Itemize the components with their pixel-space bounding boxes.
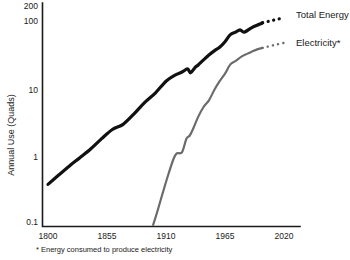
footnote: * Energy consumed to produce electricity	[36, 245, 173, 254]
x-tick-1910: 1910	[157, 231, 176, 241]
y-axis-title: Annual Use (Quads)	[6, 94, 16, 176]
series-label-electricity: Electricity*	[296, 37, 341, 48]
x-tick-1855: 1855	[98, 231, 117, 241]
y-tick-0.1: 0.1	[26, 217, 38, 227]
x-tick-2020: 2020	[275, 231, 294, 241]
x-tick-1800: 1800	[39, 231, 58, 241]
x-tick-1965: 1965	[216, 231, 235, 241]
y-tick-200: 200	[24, 1, 38, 11]
y-tick-100: 100	[24, 16, 38, 26]
y-tick-10: 10	[29, 85, 39, 95]
chart-figure: 200 100 10 1 0.1 Annual Use (Quads) 1800…	[0, 0, 350, 260]
chart-canvas: 200 100 10 1 0.1 Annual Use (Quads) 1800…	[0, 0, 350, 260]
series-label-total-energy: Total Energy	[296, 9, 349, 20]
y-tick-1: 1	[33, 152, 38, 162]
